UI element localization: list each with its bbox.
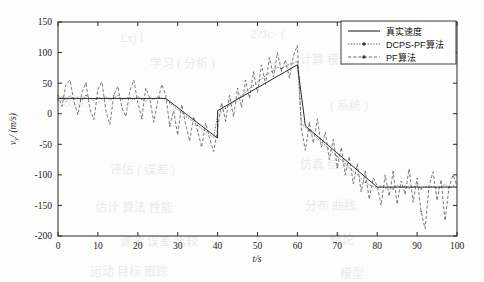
series-marker: [169, 125, 170, 126]
series-marker: [113, 95, 114, 96]
series-marker: [225, 120, 226, 121]
series-marker: [281, 70, 282, 71]
series-marker: [392, 188, 393, 189]
series-marker: [420, 211, 421, 212]
series-marker: [57, 95, 58, 96]
series-marker: [420, 188, 421, 189]
y-tick-label: -100: [35, 170, 53, 180]
series-marker: [253, 71, 254, 72]
x-tick-label: 30: [173, 241, 183, 251]
x-tick-label: 10: [93, 241, 103, 251]
x-tick-label: 100: [450, 241, 465, 251]
x-tick-label: 0: [56, 241, 61, 251]
series-marker: [309, 130, 310, 131]
x-tick-label: 70: [333, 241, 343, 251]
series-marker: [281, 68, 282, 69]
x-axis-title: t/s: [253, 254, 262, 264]
series-marker: [141, 98, 142, 99]
y-tick-label: -50: [39, 140, 52, 150]
series-marker: [169, 102, 170, 103]
y-tick-label: 150: [38, 17, 53, 27]
series-marker: [365, 181, 366, 182]
x-tick-label: 50: [253, 241, 263, 251]
series-marker: [253, 85, 254, 86]
series-marker: [197, 130, 198, 131]
series-marker: [392, 171, 393, 172]
legend-label-pf: PF算法: [386, 52, 416, 63]
series-marker: [337, 156, 338, 157]
legend-marker-pf-icon: [362, 55, 365, 58]
y-tick-label: -200: [35, 231, 53, 241]
series-true-velocity: [58, 65, 457, 187]
series-pf-algorithm: [58, 45, 457, 228]
series-marker: [85, 95, 86, 96]
series-dcps-pf-algorithm: [58, 61, 457, 189]
y-tick-label: -150: [35, 201, 53, 211]
x-tick-label: 80: [372, 241, 382, 251]
x-tick-label: 40: [213, 241, 223, 251]
series-markers: [57, 68, 449, 212]
chart-legend: 真实速度 DCPS-PF算法 PF算法: [341, 21, 456, 64]
series-marker: [141, 118, 142, 119]
x-tick-label: 90: [412, 241, 422, 251]
series-marker: [85, 82, 86, 83]
series-marker: [448, 186, 449, 187]
legend-marker-dcps-icon: [362, 42, 365, 45]
y-tick-label: 100: [38, 48, 53, 58]
series-marker: [365, 171, 366, 172]
series-marker: [337, 167, 338, 168]
x-tick-label: 60: [293, 241, 303, 251]
series-marker: [57, 100, 58, 101]
series-marker: [225, 108, 226, 109]
series-marker: [309, 122, 310, 123]
y-axis-title: vy/ (m/s): [8, 113, 20, 145]
series-marker: [197, 125, 198, 126]
y-tick-label: 0: [47, 109, 52, 119]
legend-label-dcps-pf: DCPS-PF算法: [386, 39, 444, 50]
series-marker: [113, 97, 114, 98]
legend-label-true-velocity: 真实速度: [386, 26, 422, 37]
y-tick-label: 50: [43, 79, 53, 89]
x-tick-label: 20: [133, 241, 143, 251]
